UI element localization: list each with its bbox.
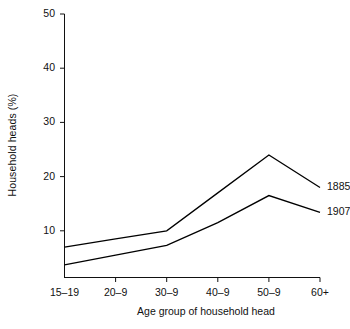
y-axis-ticks bbox=[60, 14, 65, 231]
series-label-1885: 1885 bbox=[327, 180, 350, 192]
y-tick-label: 40 bbox=[33, 61, 55, 73]
y-tick-label: 50 bbox=[33, 7, 55, 19]
x-axis-label: Age group of household head bbox=[64, 305, 348, 317]
x-tick-label: 50–9 bbox=[257, 286, 280, 298]
x-tick-label: 30–9 bbox=[155, 286, 178, 298]
y-tick-label: 30 bbox=[33, 115, 55, 127]
series-line-1885 bbox=[65, 155, 321, 247]
series-lines bbox=[65, 155, 321, 265]
y-tick-label: 20 bbox=[33, 170, 55, 182]
y-axis-label-container: Household heads (%) bbox=[0, 0, 24, 290]
x-tick-label: 20–9 bbox=[104, 286, 127, 298]
series-label-1907: 1907 bbox=[327, 205, 350, 217]
x-tick-label: 40–9 bbox=[206, 286, 229, 298]
x-tick-label: 15–19 bbox=[50, 286, 79, 298]
x-tick-label: 60+ bbox=[311, 286, 329, 298]
y-tick-label: 10 bbox=[33, 224, 55, 236]
x-axis-ticks bbox=[116, 278, 320, 283]
series-line-1907 bbox=[65, 196, 321, 265]
y-axis-label: Household heads (%) bbox=[6, 94, 18, 197]
